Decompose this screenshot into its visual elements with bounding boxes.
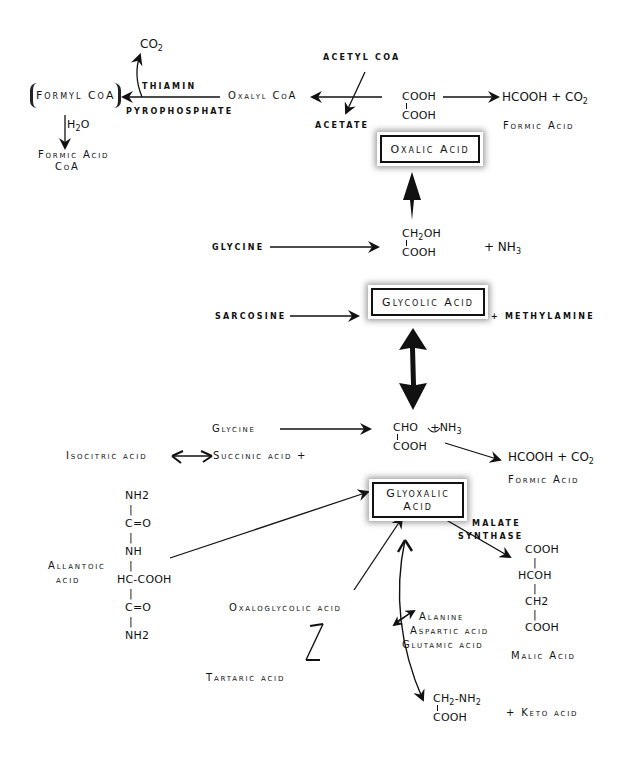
isocitric-acid-label: Isocitric acid (66, 451, 147, 461)
acetyl-coa-label: ACETYL CoA (323, 54, 400, 62)
keto-acid-label: + Keto acid (506, 708, 578, 718)
nh3-top-label: + NH3 (484, 241, 521, 253)
glycine-top-label: GLYCINE (212, 244, 264, 252)
oxalyl-coa-node: Oxalyl CoA (228, 91, 297, 101)
malate-synthase-line1: MALATE (472, 520, 521, 528)
malic-formula: COOH | HCOH | CH2 | COOH (525, 543, 559, 634)
allantoic-acid-line2: acid (56, 575, 80, 585)
thiamin-label: THIAMIN (142, 83, 196, 91)
amino-acid-alanine: Alanine (419, 612, 464, 622)
glycine-formula: CH2-NH2 COOH (433, 693, 481, 723)
formic-acid-top-label: Formic Acid (503, 121, 574, 131)
arrow-glycolic-glyoxalic (399, 328, 427, 410)
arrow-glycolic-to-oxalic (403, 172, 421, 220)
glyoxalic-acid-box: GlyoxalicAcid (372, 482, 464, 518)
glycine-mid-label: Glycine (212, 424, 256, 434)
co2-label: CO2 (140, 38, 163, 50)
oxalic-formula: COOHCOOH (402, 91, 436, 121)
amino-acid-aspartic: Aspartic acid (410, 626, 489, 636)
malate-synthase-line2: SYNTHASE (458, 533, 523, 541)
oxalic-acid-box: Oxalic Acid (380, 135, 480, 163)
succinic-acid-label: Succinic acid + (213, 451, 307, 461)
pyrophosphate-label: PYROPHOSPHATE (126, 108, 233, 116)
formic-products-mid: HCOOH + CO2 (508, 451, 594, 463)
glyoxalic-formula: CHO+NH3 COOH (393, 422, 462, 452)
formic-acid-mid-label: Formic Acid (508, 475, 579, 485)
allantoic-acid-line1: Allantoic (48, 561, 106, 571)
methylamine-label: + METHYLAMINE (491, 313, 595, 321)
malic-acid-label: Malic Acid (511, 651, 576, 661)
h2o-label: H2O (67, 119, 90, 130)
glycolic-formula: CH2OH COOH (402, 228, 441, 258)
arrow-acetyl-to-acetate (346, 72, 365, 113)
formic-products-top: HCOOH + CO2 (502, 91, 588, 103)
amino-acid-glutamic: Glutamic acid (402, 640, 484, 650)
allantoic-formula: NH2 | C=O | NH | HC-COOH | C=O | NH2 (125, 489, 172, 643)
arrow-allantoic-to-glyoxalic (170, 492, 368, 558)
formyl-coa-node: Formyl CoA (30, 83, 121, 108)
arrow-oxaloglycolic-to-glyoxalic (354, 518, 402, 590)
acetate-label: ACETATE (315, 122, 369, 130)
formic-acid-coa-line2: CoA (55, 162, 80, 172)
formic-acid-coa-line1: Formic Acid (38, 150, 109, 160)
oxaloglycolic-acid-label: Oxaloglycolic acid (229, 603, 342, 613)
sarcosine-label: SARCOSINE (215, 313, 286, 321)
glycolic-acid-box: Glycolic Acid (371, 288, 485, 316)
tartaric-acid-label: Tartaric acid (206, 673, 285, 683)
